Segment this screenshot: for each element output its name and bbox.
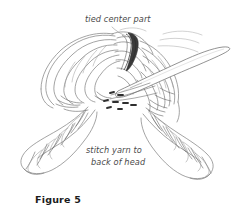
annotation-tied-center-part-text: tied center part xyxy=(85,14,151,24)
annotation-stitch-yarn-line1: stitch yarn to xyxy=(86,145,142,155)
annotation-stitch-yarn: stitch yarn to back of head xyxy=(86,144,145,168)
annotation-stitch-yarn-line2: back of head xyxy=(86,156,145,168)
annotation-tied-center-part: tied center part xyxy=(85,14,151,25)
hair-wig-line-drawing xyxy=(0,0,240,214)
left-hair-mass xyxy=(41,33,120,108)
tied-center-knot xyxy=(121,33,138,71)
figure-caption: Figure 5 xyxy=(35,194,81,205)
figure-illustration-panel: tied center part stitch yarn to back of … xyxy=(0,0,240,214)
left-hair-shading xyxy=(56,92,111,111)
right-coiled-braid xyxy=(141,110,213,179)
